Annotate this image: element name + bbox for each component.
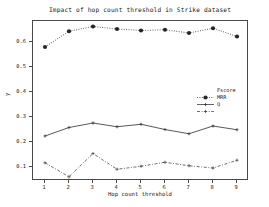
data-point: [235, 159, 238, 162]
series-mrr: [43, 121, 238, 137]
data-point: [235, 34, 239, 38]
y-tick-mark: [29, 166, 32, 167]
x-tick-label: 4: [111, 184, 121, 190]
data-point: [187, 31, 191, 35]
data-point: [43, 45, 47, 49]
legend-item-fscore[interactable]: Fscore: [196, 86, 246, 93]
x-tick-label: 3: [87, 184, 97, 190]
legend-item-q[interactable]: Q: [196, 100, 246, 107]
data-point: [115, 168, 118, 171]
y-tick-mark: [29, 141, 32, 142]
x-tick-mark: [164, 180, 165, 183]
legend-label: Q: [217, 101, 220, 107]
data-point: [235, 128, 238, 131]
x-tick-label: 8: [207, 184, 217, 190]
x-tick-mark: [188, 180, 189, 183]
x-tick-mark: [140, 180, 141, 183]
legend-item-mrr[interactable]: MRR: [196, 93, 246, 100]
legend: FscoreMRRQ: [196, 86, 246, 108]
x-axis-label: Hop count threshold: [32, 191, 248, 197]
y-tick-label: 0.3: [4, 113, 26, 119]
data-point: [163, 28, 167, 32]
data-point: [91, 121, 94, 124]
x-tick-mark: [212, 180, 213, 183]
data-point: [163, 128, 166, 131]
series-q: [43, 152, 238, 178]
data-point: [43, 161, 46, 164]
y-axis-label: y: [4, 93, 10, 96]
legend-label: MRR: [217, 94, 226, 100]
x-tick-label: 1: [39, 184, 49, 190]
data-point: [115, 125, 118, 128]
data-point: [211, 26, 215, 30]
x-tick-mark: [92, 180, 93, 183]
chart-figure: Impact of hop count threshold in Strike …: [0, 0, 269, 207]
y-tick-label: 0.2: [4, 138, 26, 144]
x-tick-mark: [236, 180, 237, 183]
data-point: [163, 161, 166, 164]
legend-swatch-icon: [196, 100, 215, 107]
data-point: [139, 165, 142, 168]
data-point: [139, 28, 143, 32]
x-tick-mark: [68, 180, 69, 183]
data-point: [91, 24, 95, 28]
data-point: [187, 164, 190, 167]
y-tick-mark: [29, 66, 32, 67]
x-tick-label: 9: [231, 184, 241, 190]
y-tick-mark: [29, 116, 32, 117]
chart-title: Impact of hop count threshold in Strike …: [32, 6, 248, 13]
x-tick-label: 7: [183, 184, 193, 190]
data-point: [139, 123, 142, 126]
legend-swatch-icon: [196, 86, 215, 93]
y-tick-label: 0.5: [4, 63, 26, 69]
y-tick-label: 0.1: [4, 163, 26, 169]
x-tick-mark: [44, 180, 45, 183]
y-tick-label: 0.6: [4, 38, 26, 44]
series-fscore: [43, 24, 239, 49]
y-tick-mark: [29, 91, 32, 92]
x-tick-label: 2: [63, 184, 73, 190]
data-point: [67, 29, 71, 33]
y-tick-mark: [29, 41, 32, 42]
data-point: [115, 27, 119, 31]
x-tick-label: 5: [135, 184, 145, 190]
x-tick-mark: [116, 180, 117, 183]
data-point: [187, 132, 190, 135]
data-point: [211, 166, 214, 169]
legend-label: Fscore: [217, 87, 236, 93]
data-point: [211, 124, 214, 127]
legend-swatch-icon: [196, 93, 215, 100]
x-tick-label: 6: [159, 184, 169, 190]
data-point: [43, 134, 46, 137]
data-point: [67, 126, 70, 129]
